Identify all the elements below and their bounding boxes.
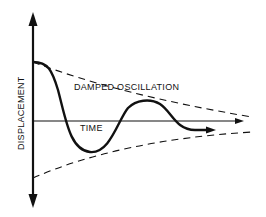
curve-label: DAMPED OSCILLATION — [74, 82, 179, 92]
oscillation-curve — [33, 62, 208, 152]
displacement-axis-label: DISPLACEMENT — [16, 76, 26, 150]
arrow-up-icon — [29, 12, 38, 26]
damped-oscillation-diagram: DAMPED OSCILLATION TIME DISPLACEMENT — [0, 0, 266, 217]
time-axis-label: TIME — [80, 123, 103, 133]
lower-envelope — [33, 132, 252, 178]
curve-arrow-icon — [206, 127, 216, 134]
diagram-svg: DAMPED OSCILLATION TIME DISPLACEMENT — [0, 0, 266, 217]
arrow-down-icon — [29, 194, 38, 208]
arrow-right-icon — [235, 118, 244, 124]
displacement-axis — [29, 12, 38, 208]
